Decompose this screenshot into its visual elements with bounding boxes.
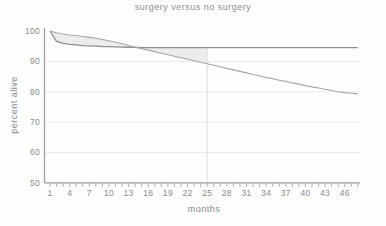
- y-tick-label-60: 60: [30, 147, 40, 157]
- x-tick-label-37: 37: [281, 188, 291, 198]
- x-tick-label-31: 31: [241, 188, 251, 198]
- x-tick-label-1: 1: [47, 188, 52, 198]
- x-tick-label-25: 25: [202, 188, 212, 198]
- x-axis-label: months: [24, 204, 384, 214]
- x-tick-label-4: 4: [67, 188, 72, 198]
- x-tick-label-22: 22: [183, 188, 193, 198]
- y-axis-label: percent alive: [9, 67, 19, 143]
- x-tick-label-19: 19: [163, 188, 173, 198]
- chart-canvas: 1471013161922252831343740434610090807060…: [0, 0, 386, 226]
- x-tick-label-46: 46: [340, 188, 350, 198]
- x-tick-label-13: 13: [124, 188, 134, 198]
- x-tick-label-34: 34: [261, 188, 271, 198]
- x-tick-label-16: 16: [143, 188, 153, 198]
- x-tick-label-10: 10: [104, 188, 114, 198]
- y-tick-label-80: 80: [30, 87, 40, 97]
- y-tick-label-90: 90: [30, 56, 40, 66]
- x-tick-label-40: 40: [300, 188, 310, 198]
- x-tick-label-28: 28: [222, 188, 232, 198]
- y-tick-label-70: 70: [30, 117, 40, 127]
- y-tick-label-50: 50: [30, 178, 40, 188]
- y-tick-label-100: 100: [25, 26, 40, 36]
- x-tick-label-43: 43: [320, 188, 330, 198]
- x-tick-label-7: 7: [87, 188, 92, 198]
- survival-chart-figure: surgery versus no surgery 14710131619222…: [0, 0, 386, 226]
